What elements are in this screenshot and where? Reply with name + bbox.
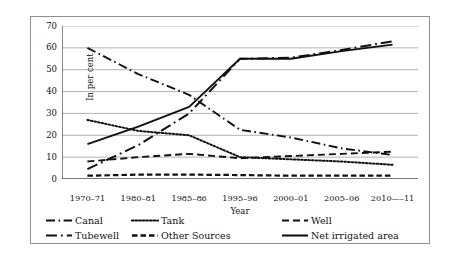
chart-legend: CanalTankWellTubewellOther SourcesNet ir…	[45, 213, 417, 243]
series-line-canal	[87, 48, 392, 155]
legend-swatch-tube	[45, 231, 73, 240]
legend-label-tube: Tubewell	[75, 230, 119, 241]
legend-swatch-other	[131, 231, 159, 240]
legend-swatch-net	[281, 231, 309, 240]
legend-label-net: Net irrigated area	[311, 230, 399, 241]
series-layer	[62, 26, 418, 179]
legend-item-tank: Tank	[131, 215, 281, 226]
legend-label-other: Other Sources	[161, 230, 231, 241]
legend-swatch-well	[281, 216, 309, 225]
legend-label-well: Well	[311, 215, 332, 226]
series-line-net	[87, 45, 392, 144]
y-tick-label: 20	[35, 131, 57, 140]
y-tick-label: 0	[35, 175, 57, 184]
legend-item-tube: Tubewell	[45, 230, 131, 241]
y-tick-label: 30	[35, 109, 57, 118]
legend-swatch-canal	[45, 216, 73, 225]
x-tick-label: 2010—–11	[363, 193, 423, 203]
legend-item-well: Well	[281, 215, 371, 226]
plot-area: 010203040506070 In per cent 1970–711980–…	[62, 26, 418, 179]
y-axis-title: In per cent	[85, 32, 95, 122]
legend-label-tank: Tank	[161, 215, 184, 226]
y-tick-label: 10	[35, 153, 57, 162]
legend-row: TubewellOther SourcesNet irrigated area	[45, 228, 417, 243]
legend-label-canal: Canal	[75, 215, 103, 226]
legend-item-other: Other Sources	[131, 230, 281, 241]
series-line-other	[87, 175, 392, 176]
y-tick-label: 40	[35, 87, 57, 96]
y-tick-label: 70	[35, 22, 57, 31]
y-tick-label: 60	[35, 43, 57, 52]
legend-row: CanalTankWell	[45, 213, 417, 228]
chart-figure: 010203040506070 In per cent 1970–711980–…	[30, 16, 430, 244]
y-tick-label: 50	[35, 65, 57, 74]
legend-item-canal: Canal	[45, 215, 131, 226]
legend-item-net: Net irrigated area	[281, 230, 399, 241]
legend-swatch-tank	[131, 216, 159, 225]
